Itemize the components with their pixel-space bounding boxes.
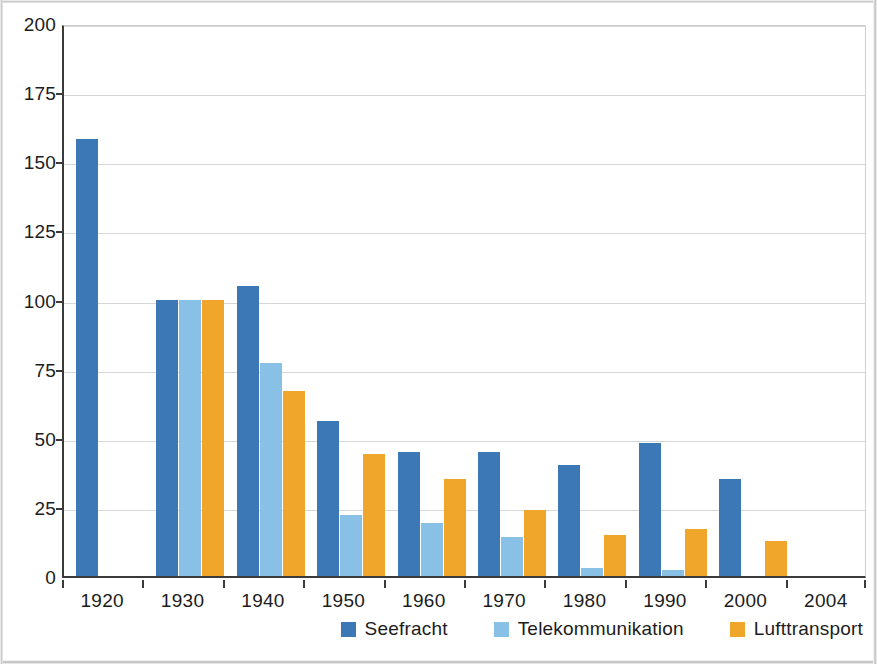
x-tick-label-1920: 1920 <box>62 590 142 612</box>
y-axis: 0255075100125150175200 <box>0 25 56 578</box>
x-tick-label-1950: 1950 <box>303 590 383 612</box>
legend-item-seefracht: Seefracht <box>341 618 448 640</box>
legend-swatch-icon-telekommunikation <box>494 622 509 637</box>
bar-1950-telekommunikation <box>340 515 362 576</box>
bar-chart-figure: 0255075100125150175200 19201930194019501… <box>0 0 877 664</box>
x-tick-mark-5 <box>464 580 466 588</box>
x-tick-label-1970: 1970 <box>464 590 544 612</box>
x-tick-label-1980: 1980 <box>545 590 625 612</box>
gridline-150 <box>64 164 865 165</box>
x-tick-label-1930: 1930 <box>143 590 223 612</box>
bar-2000-lufttransport <box>765 541 787 576</box>
figure-border-bottom <box>0 660 877 664</box>
bar-1950-seefracht <box>317 421 339 576</box>
bar-1920-seefracht <box>76 139 98 576</box>
bar-1990-seefracht <box>639 443 661 576</box>
x-tick-mark-9 <box>786 580 788 588</box>
legend-label-lufttransport: Lufttransport <box>754 618 863 640</box>
x-tick-label-2004: 2004 <box>786 590 866 612</box>
legend-swatch-icon-seefracht <box>341 622 356 637</box>
legend-item-lufttransport: Lufttransport <box>730 618 863 640</box>
chart-legend: SeefrachtTelekommunikationLufttransport <box>0 614 877 644</box>
y-tick-label-100: 100 <box>4 291 56 313</box>
bar-1990-lufttransport <box>685 529 707 576</box>
x-tick-mark-1 <box>142 580 144 588</box>
legend-label-telekommunikation: Telekommunikation <box>518 618 684 640</box>
bar-1930-seefracht <box>156 300 178 577</box>
x-tick-mark-8 <box>705 580 707 588</box>
bar-1960-lufttransport <box>444 479 466 576</box>
bar-1960-seefracht <box>398 452 420 576</box>
x-axis: 1920193019401950196019701980199020002004 <box>62 580 866 614</box>
gridline-125 <box>64 233 865 234</box>
y-tick-label-50: 50 <box>4 429 56 451</box>
x-tick-mark-4 <box>384 580 386 588</box>
bar-1970-telekommunikation <box>501 537 523 576</box>
bar-1970-lufttransport <box>524 510 546 576</box>
y-tick-label-175: 175 <box>4 83 56 105</box>
legend-label-seefracht: Seefracht <box>365 618 448 640</box>
bar-1960-telekommunikation <box>421 523 443 576</box>
y-tick-label-25: 25 <box>4 498 56 520</box>
bar-1970-seefracht <box>478 452 500 576</box>
bar-1980-telekommunikation <box>581 568 603 576</box>
bar-2000-seefracht <box>719 479 741 576</box>
bar-1930-lufttransport <box>202 300 224 577</box>
bar-1940-telekommunikation <box>260 363 282 576</box>
gridline-200 <box>64 26 865 27</box>
x-tick-mark-0 <box>62 580 64 588</box>
plot-area <box>62 25 866 578</box>
x-tick-mark-7 <box>625 580 627 588</box>
y-tick-label-125: 125 <box>4 221 56 243</box>
x-tick-mark-3 <box>303 580 305 588</box>
x-tick-label-1940: 1940 <box>223 590 303 612</box>
figure-border-top <box>0 0 877 3</box>
figure-border-right <box>873 0 877 664</box>
gridline-175 <box>64 95 865 96</box>
bar-1930-telekommunikation <box>179 300 201 577</box>
x-tick-label-2000: 2000 <box>705 590 785 612</box>
bar-1940-lufttransport <box>283 391 305 576</box>
bar-1980-seefracht <box>558 465 580 576</box>
x-tick-label-1990: 1990 <box>625 590 705 612</box>
y-tick-label-0: 0 <box>4 567 56 589</box>
bar-1950-lufttransport <box>363 454 385 576</box>
legend-swatch-icon-lufttransport <box>730 622 745 637</box>
legend-item-telekommunikation: Telekommunikation <box>494 618 684 640</box>
bar-1990-telekommunikation <box>662 570 684 576</box>
y-tick-label-75: 75 <box>4 360 56 382</box>
bar-1940-seefracht <box>237 286 259 576</box>
bar-1980-lufttransport <box>604 535 626 576</box>
y-tick-label-200: 200 <box>4 14 56 36</box>
x-tick-mark-2 <box>223 580 225 588</box>
x-tick-label-1960: 1960 <box>384 590 464 612</box>
y-tick-label-150: 150 <box>4 152 56 174</box>
x-tick-mark-10 <box>864 580 866 588</box>
x-tick-mark-6 <box>544 580 546 588</box>
